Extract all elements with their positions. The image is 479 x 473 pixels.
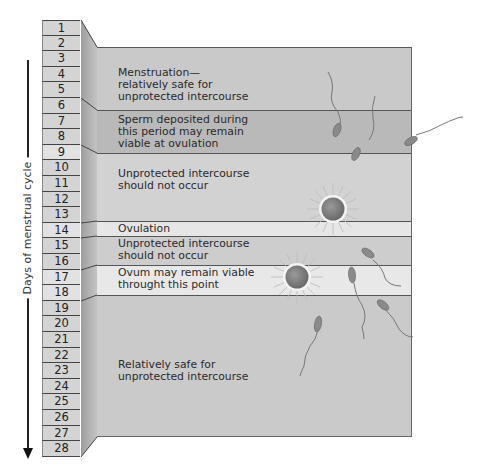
sperm-icon — [328, 72, 343, 138]
ovum-icon — [271, 251, 323, 303]
sperm-icon — [300, 316, 323, 376]
illustration-layer — [0, 0, 479, 473]
sperm-icon — [375, 298, 413, 337]
ovum-icon — [307, 183, 359, 235]
sperm-icon — [350, 96, 375, 162]
sperm-icon — [360, 246, 401, 286]
sperm-icon — [403, 117, 463, 148]
sperm-icon — [348, 267, 365, 339]
sperm-icons — [300, 72, 463, 376]
